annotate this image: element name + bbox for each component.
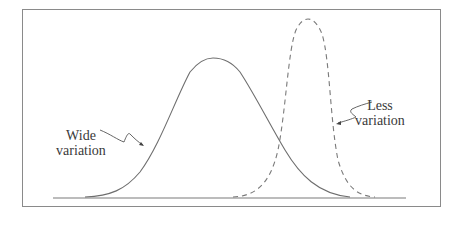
wide-variation-label: Wide variation xyxy=(52,128,110,158)
less-variation-label: Less variation xyxy=(350,98,410,128)
wide-label-line1: Wide xyxy=(52,128,110,143)
wide-label-line2: variation xyxy=(52,143,110,158)
less-label-line1: Less xyxy=(350,98,410,113)
wide-variation-curve xyxy=(85,58,350,197)
arrowhead-icon xyxy=(336,121,341,125)
less-label-line2: variation xyxy=(350,113,410,128)
